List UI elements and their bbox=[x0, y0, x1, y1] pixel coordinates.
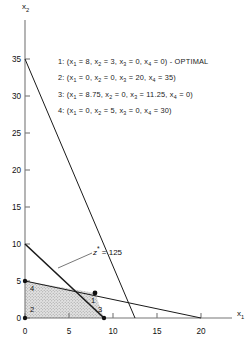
legend-row-2: 2: (x1 = 0, x2 = 0, x3 = 20, x4 = 35) bbox=[58, 71, 251, 87]
vertex-dot-2 bbox=[23, 316, 27, 320]
x-tick-20: 20 bbox=[196, 327, 206, 336]
y-tick-0: 0 bbox=[16, 314, 21, 323]
legend-row-1-tail: - OPTIMAL bbox=[170, 57, 209, 66]
vertex-label-4: 4 bbox=[30, 284, 34, 293]
x-tick-0: 0 bbox=[23, 327, 28, 336]
solutions-legend: 1: (x1 = 8, x2 = 3, x3 = 0, x4 = 0) - OP… bbox=[58, 55, 251, 121]
vertex-dot-3 bbox=[102, 316, 106, 320]
z-star-annotation: z* = 125 bbox=[93, 245, 122, 257]
x-tick-5: 5 bbox=[67, 327, 72, 336]
legend-row-2-id: 2: bbox=[58, 73, 65, 82]
x-tick-10: 10 bbox=[108, 327, 118, 336]
z-star-leader bbox=[58, 253, 92, 268]
legend-row-4: 4: (x1 = 0, x2 = 5, x3 = 0, x4 = 30) bbox=[58, 104, 251, 120]
y-tick-25: 25 bbox=[12, 129, 22, 138]
y-tick-labels: 0 5 10 15 20 25 30 35 bbox=[12, 55, 22, 323]
legend-row-3: 3: (x1 = 8.75, x2 = 0, x3 = 11.25, x4 = … bbox=[58, 88, 251, 104]
legend-row-1-id: 1: bbox=[58, 57, 65, 66]
vertex-label-3: 3 bbox=[98, 305, 102, 314]
x-tick-labels: 0 5 10 15 20 bbox=[23, 327, 206, 336]
y-axis-title: x2 bbox=[22, 2, 29, 13]
y-tick-30: 30 bbox=[12, 92, 22, 101]
plot-area: 0 5 10 15 20 25 30 35 0 5 10 15 20 bbox=[0, 0, 251, 344]
x-tick-15: 15 bbox=[152, 327, 162, 336]
y-tick-10: 10 bbox=[12, 240, 22, 249]
vertex-dot-4 bbox=[23, 279, 27, 283]
y-tick-20: 20 bbox=[12, 166, 22, 175]
vertex-label-1: 1 bbox=[91, 296, 95, 305]
y-tick-35: 35 bbox=[12, 55, 22, 64]
y-tick-5: 5 bbox=[16, 277, 21, 286]
legend-row-4-id: 4: bbox=[58, 106, 65, 115]
legend-row-1: 1: (x1 = 8, x2 = 3, x3 = 0, x4 = 0) - OP… bbox=[58, 55, 251, 71]
vertex-label-2: 2 bbox=[30, 305, 34, 314]
vertex-dot-1 bbox=[93, 291, 98, 296]
y-tick-15: 15 bbox=[12, 203, 22, 212]
x-axis-title: x1 bbox=[237, 309, 244, 320]
lp-graph-figure: 0 5 10 15 20 25 30 35 0 5 10 15 20 bbox=[0, 0, 251, 344]
legend-row-3-id: 3: bbox=[58, 90, 65, 99]
